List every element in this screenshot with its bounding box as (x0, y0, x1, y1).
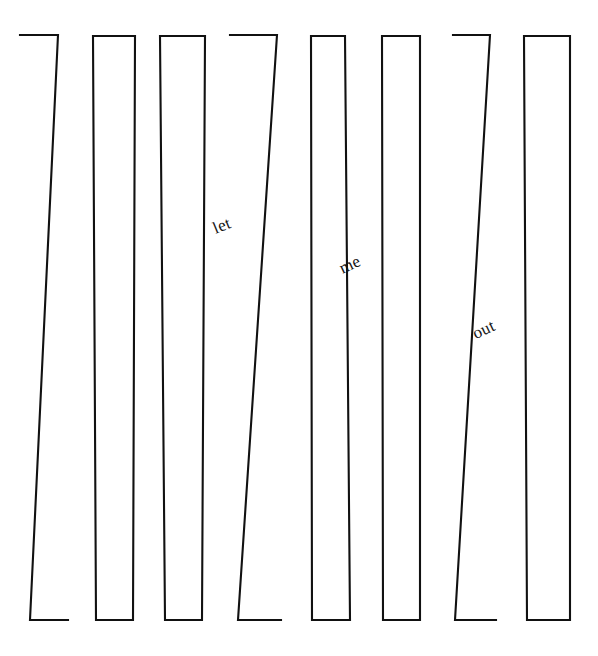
artboard: letmeout (0, 0, 598, 656)
bar-3 (160, 36, 205, 620)
bar-4 (230, 35, 281, 620)
bar-1 (20, 35, 68, 620)
bar-6 (382, 36, 420, 620)
bar-5 (311, 36, 350, 620)
bars-drawing (0, 0, 598, 656)
bar-8 (524, 36, 570, 620)
bar-2 (93, 36, 135, 620)
